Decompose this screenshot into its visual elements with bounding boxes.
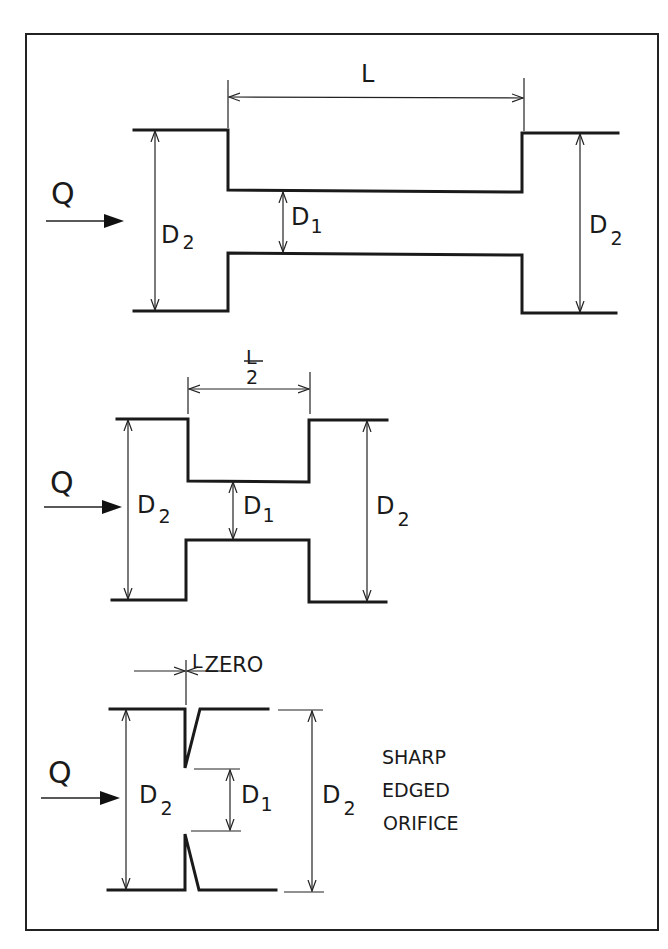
note-line: SHARP: [382, 746, 446, 768]
flow-label: Q: [51, 176, 75, 211]
length-dimension: [229, 97, 523, 98]
lower-wall: [134, 253, 616, 313]
inner-diameter-label: D1: [241, 781, 273, 815]
outer-diameter-label: D2: [322, 781, 356, 819]
flow-arrow-icon: [100, 791, 120, 805]
outer-diameter-label: D2: [589, 211, 623, 249]
inner-diameter-label: D1: [291, 203, 323, 237]
upper-wall: [110, 709, 268, 768]
note-line: ORIFICE: [383, 812, 459, 834]
flow-arrow-icon: [102, 500, 122, 514]
lower-wall: [108, 834, 276, 890]
upper-wall: [134, 130, 618, 192]
outer-diameter-label: D2: [137, 491, 171, 527]
length-label-denominator: 2: [246, 366, 258, 388]
note-line: EDGED: [382, 779, 450, 801]
panel-sharp-edged-orifice: LZERO D2 D1 D2 SHARP EDGED ORIFICE Q: [41, 650, 459, 892]
inner-diameter-label: D1: [243, 492, 275, 526]
flow-arrow-icon: [104, 214, 124, 228]
outer-diameter-label: D2: [139, 781, 173, 819]
diagram-frame: [26, 34, 658, 930]
upper-wall: [117, 419, 387, 482]
length-label: LZERO: [192, 650, 263, 677]
length-label: L: [361, 60, 375, 88]
outer-diameter-label: D2: [161, 221, 195, 253]
lower-wall: [112, 540, 386, 602]
panel-half-length-constriction: L 2 D2 D1 D2 Q: [44, 346, 410, 602]
panel-long-constriction: L D2 D1 D2 Q: [46, 60, 623, 313]
outer-diameter-label: D2: [376, 492, 410, 530]
flow-label: Q: [50, 465, 74, 500]
flow-constriction-diagram: L D2 D1 D2 Q L 2 D2 D1 D2 Q: [0, 0, 668, 949]
length-label-numerator: L: [246, 346, 257, 368]
flow-label: Q: [48, 755, 72, 790]
